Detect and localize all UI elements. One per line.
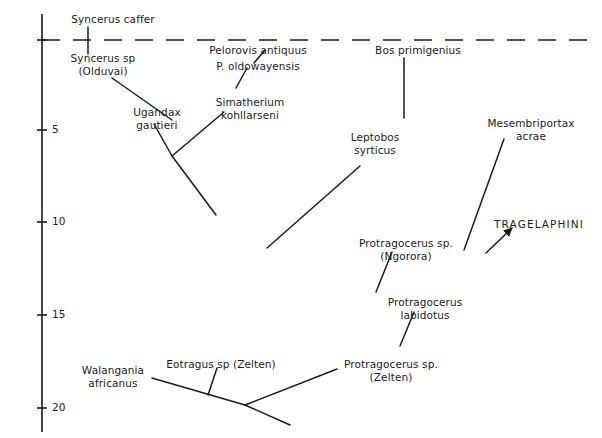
- taxon-label-p-oldowayensis: P. oldowayensis: [216, 60, 300, 73]
- taxon-label-line: labidotus: [388, 309, 463, 322]
- taxon-label-line: (Ngorora): [359, 250, 453, 263]
- taxon-label-eotragus-sp-zelten: Eotragus sp (Zelten): [166, 358, 276, 371]
- taxon-label-bos-primigenius: Bos primigenius: [375, 44, 461, 57]
- taxon-label-line: Protragocerus: [388, 296, 463, 309]
- taxon-label-line: P. oldowayensis: [216, 60, 300, 73]
- taxon-label-syncerus-caffer: Syncerus caffer: [71, 13, 154, 26]
- taxon-label-line: syrticus: [351, 144, 400, 157]
- taxon-label-line: Eotragus sp (Zelten): [166, 358, 276, 371]
- taxon-label-simatherium-kohllarseni: Simatheriumkohllarseni: [216, 96, 285, 121]
- taxon-label-line: Walangania: [82, 364, 144, 377]
- taxon-label-line: Leptobos: [351, 131, 400, 144]
- taxon-label-line: (Olduvai): [71, 65, 136, 78]
- taxon-label-line: africanus: [82, 377, 144, 390]
- taxon-label-walangania-africanus: Walanganiaafricanus: [82, 364, 144, 389]
- branch-eotragus-stem: [208, 368, 217, 395]
- taxon-label-line: Pelorovis antiquus: [209, 44, 307, 57]
- taxon-label-syncerus-sp-olduvai: Syncerus sp(Olduvai): [71, 52, 136, 77]
- axis-tick-label-10: 10: [52, 215, 65, 227]
- axis-tick-label-5: 5: [52, 123, 59, 135]
- taxon-label-line: gautieri: [133, 119, 180, 132]
- taxon-label-line: Bos primigenius: [375, 44, 461, 57]
- taxon-label-pelorovis-antiquus: Pelorovis antiquus: [209, 44, 307, 57]
- branch-lines: [88, 27, 512, 425]
- time-axis: [37, 14, 47, 432]
- branch-node-to-base: [245, 405, 290, 425]
- branch-walangania-to-node: [152, 378, 245, 405]
- branch-zelten-protragocerus-stem: [245, 369, 337, 405]
- axis-tick-label-20: 20: [52, 401, 65, 413]
- taxon-label-line: Ugandax: [133, 106, 180, 119]
- branch-node-to-lower-right: [172, 156, 216, 215]
- taxon-label-protragocerus-sp-zelten: Protragocerus sp.(Zelten): [344, 358, 438, 383]
- taxon-label-mesembriportax-acrae: Mesembriportaxacrae: [487, 117, 574, 142]
- taxon-label-line: Syncerus caffer: [71, 13, 154, 26]
- taxon-label-line: Mesembriportax: [487, 117, 574, 130]
- taxon-label-line: acrae: [487, 130, 574, 143]
- branch-tragelaphini-arrow: [486, 228, 512, 253]
- taxon-label-protragocerus-sp-ngorora: Protragocerus sp.(Ngorora): [359, 237, 453, 262]
- axis-tick-label-15: 15: [52, 308, 65, 320]
- taxon-label-line: Simatherium: [216, 96, 285, 109]
- taxon-label-line: Protragocerus sp.: [344, 358, 438, 371]
- taxon-label-line: Protragocerus sp.: [359, 237, 453, 250]
- taxon-label-line: kohllarseni: [216, 109, 285, 122]
- taxon-label-protragocerus-labidotus: Protragoceruslabidotus: [388, 296, 463, 321]
- taxon-label-line: (Zelten): [344, 371, 438, 384]
- branch-mesembriportax-stem: [464, 139, 504, 250]
- taxon-label-tragelaphini: TRAGELAPHINI: [494, 218, 584, 231]
- taxon-label-ugandax-gautieri: Ugandaxgautieri: [133, 106, 180, 131]
- taxon-label-line: TRAGELAPHINI: [494, 218, 584, 231]
- figure-canvas: 5101520 Syncerus cafferSyncerus sp(Olduv…: [0, 0, 602, 438]
- branch-leptobos-stem: [267, 166, 360, 248]
- taxon-label-leptobos-syrticus: Leptobossyrticus: [351, 131, 400, 156]
- taxon-label-line: Syncerus sp: [71, 52, 136, 65]
